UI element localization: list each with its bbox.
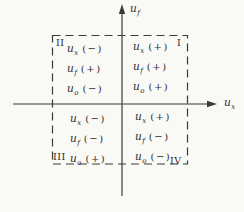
variable: u xyxy=(70,132,77,144)
variable: u xyxy=(67,82,74,94)
subscript: f xyxy=(74,69,77,77)
sign-expression: ux(−) xyxy=(67,40,103,60)
sign-value: (+) xyxy=(85,153,106,164)
x-axis-subscript: x xyxy=(231,103,235,111)
y-axis-label: uf xyxy=(130,2,140,16)
sign-value: (−) xyxy=(82,83,103,94)
sign-expression: ux(−) xyxy=(70,110,106,130)
sign-expression: uo(−) xyxy=(135,148,171,168)
subscript: x xyxy=(74,49,78,57)
variable: u xyxy=(133,60,140,72)
y-axis-variable: u xyxy=(130,2,137,14)
quadrant-3-numeral: III xyxy=(53,152,66,162)
variable: u xyxy=(133,80,140,92)
x-axis-label: ux xyxy=(224,96,235,110)
y-axis-arrowhead-icon xyxy=(119,4,125,14)
y-axis-subscript: f xyxy=(137,9,140,17)
subscript: f xyxy=(140,67,143,75)
quadrant-2-rows: ux(−) uf(+) uo(−) xyxy=(67,40,103,100)
sign-expression: ux(+) xyxy=(135,108,171,128)
quadrant-4-numeral: IV xyxy=(170,156,182,166)
sign-expression: uf(−) xyxy=(135,128,171,148)
sign-value: (−) xyxy=(84,133,105,144)
subscript: o xyxy=(142,157,146,165)
sign-value: (+) xyxy=(147,61,168,72)
subscript: x xyxy=(77,119,81,127)
sign-value: (−) xyxy=(150,151,171,162)
variable: u xyxy=(133,40,140,52)
sign-value: (−) xyxy=(82,43,103,54)
variable: u xyxy=(70,112,77,124)
quadrant-2-numeral: II xyxy=(56,38,65,48)
subscript: f xyxy=(142,137,145,145)
sign-expression: uo(+) xyxy=(70,150,106,170)
variable: u xyxy=(70,152,77,164)
quadrant-4-rows: ux(+) uf(−) uo(−) xyxy=(135,108,171,168)
quadrant-3-rows: ux(−) uf(−) uo(+) xyxy=(70,110,106,170)
variable: u xyxy=(135,150,142,162)
x-axis-arrowhead-icon xyxy=(207,101,217,107)
x-axis-variable: u xyxy=(224,96,231,108)
variable: u xyxy=(135,110,142,122)
sign-value: (+) xyxy=(148,81,169,92)
subscript: o xyxy=(74,89,78,97)
sign-value: (−) xyxy=(149,131,170,142)
sign-value: (+) xyxy=(148,41,169,52)
sign-value: (+) xyxy=(81,63,102,74)
quadrant-1-rows: ux(+) uf(+) uo(+) xyxy=(133,38,169,98)
sign-expression: uo(−) xyxy=(67,80,103,100)
subscript: f xyxy=(77,139,80,147)
sign-expression: uf(−) xyxy=(70,130,106,150)
sign-expression: uf(+) xyxy=(133,58,169,78)
variable: u xyxy=(67,42,74,54)
quadrant-sign-diagram: uf ux I II III IV ux(+) uf(+) uo(+) ux(−… xyxy=(0,0,244,212)
sign-expression: uf(+) xyxy=(67,60,103,80)
quadrant-1-numeral: I xyxy=(177,38,181,48)
sign-expression: ux(+) xyxy=(133,38,169,58)
diagram-canvas xyxy=(0,0,244,212)
subscript: x xyxy=(140,47,144,55)
subscript: o xyxy=(140,87,144,95)
sign-expression: uo(+) xyxy=(133,78,169,98)
variable: u xyxy=(67,62,74,74)
sign-value: (−) xyxy=(85,113,106,124)
variable: u xyxy=(135,130,142,142)
sign-value: (+) xyxy=(150,111,171,122)
subscript: x xyxy=(142,117,146,125)
subscript: o xyxy=(77,159,81,167)
